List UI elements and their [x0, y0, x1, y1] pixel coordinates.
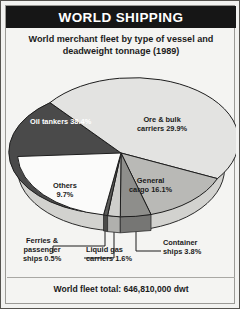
pie-side-wall-ferries: [104, 215, 108, 232]
pie-label-oil-tankers: Oil tankers 38.4%: [30, 117, 91, 126]
pie-label-ore-bulk-line2: carriers 29.9%: [137, 124, 187, 133]
pie-callout-ferries: Ferries & passenger ships 0.5%: [23, 236, 61, 263]
chart-subtitle: World merchant fleet by type of vessel a…: [15, 34, 227, 57]
chart-title-bar: WORLD SHIPPING: [6, 6, 236, 28]
pie-callout-ferries-line2: passenger: [23, 245, 61, 254]
pie-label-general-cargo-line2: cargo 16.1%: [129, 185, 172, 194]
pie-callout-container-ships-line2: ships 3.8%: [163, 247, 201, 256]
pie-side-wall-liquid-gas: [108, 216, 121, 233]
pie-label-general-cargo-line1: General: [129, 176, 172, 185]
pie-callout-liquid-gas-line2: carriers 1.6%: [86, 254, 132, 263]
chart-figure: WORLD SHIPPING World merchant fleet by t…: [0, 0, 240, 309]
page-title: WORLD SHIPPING: [59, 10, 184, 25]
pie-callout-ferries-line1: Ferries &: [23, 236, 61, 245]
chart-subtitle-line2: deadweight tonnage (1989): [15, 46, 227, 58]
chart-footer-total: World fleet total: 646,810,000 dwt: [7, 284, 235, 294]
pie-chart: Oil tankers 38.4% Ore & bulk carriers 29…: [6, 63, 236, 275]
pie-callout-container-ships: Container ships 3.8%: [163, 238, 201, 256]
pie-callout-liquid-gas-line1: Liquid gas: [86, 245, 132, 254]
leader-line-container-ships: [136, 232, 161, 251]
pie-callout-liquid-gas: Liquid gas carriers 1.6%: [86, 245, 132, 263]
pie-callout-container-ships-line1: Container: [163, 238, 201, 247]
pie-label-general-cargo: General cargo 16.1%: [129, 176, 172, 194]
chart-subtitle-line1: World merchant fleet by type of vessel a…: [15, 34, 227, 46]
pie-label-others-line1: Others: [53, 181, 77, 190]
pie-callout-ferries-line3: ships 0.5%: [23, 254, 61, 263]
pie-label-others: Others 9.7%: [53, 181, 77, 199]
pie-label-others-line2: 9.7%: [53, 190, 77, 199]
pie-label-ore-bulk-line1: Ore & bulk: [137, 115, 187, 124]
pie-label-ore-bulk: Ore & bulk carriers 29.9%: [137, 115, 187, 133]
footer-divider: [7, 277, 235, 278]
